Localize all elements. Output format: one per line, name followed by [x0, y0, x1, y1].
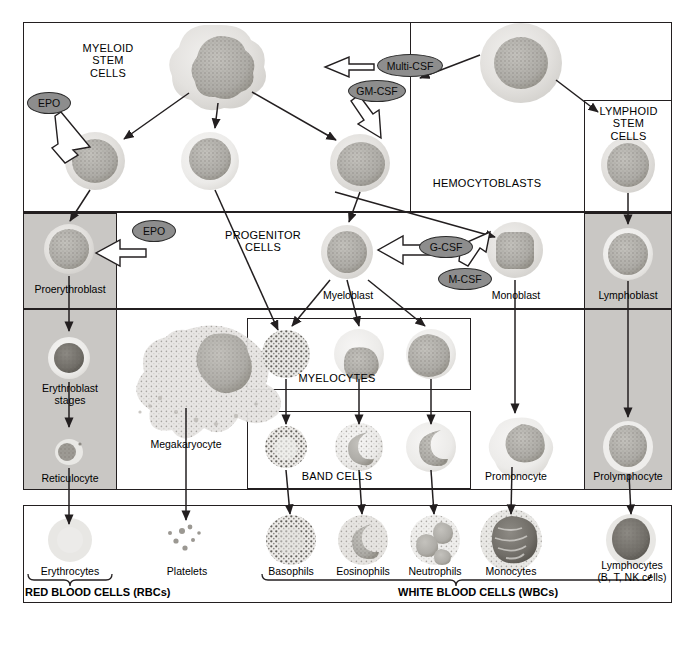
cell-reticulocyte — [55, 439, 83, 465]
arrow-stem-to-cfue — [124, 93, 189, 139]
cell-band-basophil — [265, 426, 307, 468]
myelocytes-label: MYELOCYTES — [282, 372, 392, 384]
band-cells-label: BAND CELLS — [282, 470, 392, 482]
cell-lymphoblast — [603, 228, 653, 280]
cell-proerythroblast — [44, 224, 94, 274]
cell-myelocyte-basophilic — [262, 330, 310, 378]
hematopoiesis-diagram: Multi-CSF GM-CSF EPO EPO G-CSF M-CSF MYE… — [0, 0, 680, 647]
arrow-myeloblast-to-myelocyte3 — [368, 280, 425, 326]
label-promonocyte: Promonocyte — [470, 470, 562, 482]
label-monoblast: Monoblast — [472, 289, 560, 301]
cell-monocyte — [480, 509, 542, 571]
label-erythrocytes: Erythrocytes — [24, 565, 116, 577]
label-reticulocyte: Reticulocyte — [22, 472, 118, 484]
arrow-cfumeg-to-megakaryocyte — [215, 190, 278, 330]
cell-eosinophil — [338, 515, 388, 565]
cell-myeloblast — [321, 225, 373, 279]
cell-lymphoid-stem — [601, 137, 655, 193]
hemocytoblasts-label: HEMOCYTOBLASTS — [417, 177, 557, 189]
label-erythroblast-stages: Erythroblast stages — [22, 382, 118, 407]
cell-megakaryocyte — [136, 326, 281, 439]
hollow-arrow-multi-csf — [325, 57, 374, 77]
cell-erythroblast-stages — [48, 337, 90, 379]
cell-basophil — [266, 515, 316, 565]
cell-cfu-meg — [181, 132, 239, 190]
growth-factor-epo-mid[interactable]: EPO — [132, 220, 176, 242]
cell-prolymphocyte — [603, 421, 653, 473]
cell-neutrophil — [410, 515, 460, 565]
cell-platelets — [168, 525, 201, 551]
growth-factor-gm-csf[interactable]: GM-CSF — [348, 80, 406, 102]
cell-band-eosinophil — [335, 423, 383, 471]
diagram-graphics-layer — [0, 0, 680, 647]
cell-promonocyte — [489, 418, 553, 477]
growth-factor-multi-csf[interactable]: Multi-CSF — [377, 54, 443, 77]
growth-factor-g-csf[interactable]: G-CSF — [419, 236, 473, 258]
lymphoid-stem-cells-label: LYMPHOID STEM CELLS — [586, 105, 671, 142]
label-proerythroblast: Proerythroblast — [22, 283, 118, 295]
cell-hemocytoblast — [480, 23, 562, 103]
footer-wbc: WHITE BLOOD CELLS (WBCs) — [398, 586, 558, 598]
progenitor-cells-label: PROGENITOR CELLS — [208, 229, 318, 254]
arrow-cfue-to-proerythroblast — [70, 190, 90, 221]
cell-erythrocyte — [48, 518, 92, 562]
cell-myelocyte-neutrophilic — [406, 329, 456, 379]
arrow-myeloblast-to-myelocyte2 — [347, 280, 359, 326]
label-platelets: Platelets — [142, 565, 232, 577]
arrow-myeloblast-to-myelocyte1 — [292, 280, 330, 326]
footer-rbc: RED BLOOD CELLS (RBCs) — [25, 586, 170, 598]
label-lymphocytes: Lymphocytes (B, T, NK cells) — [586, 559, 678, 584]
label-monocytes: Monocytes — [466, 565, 556, 577]
label-lymphoblast: Lymphoblast — [584, 289, 672, 301]
cell-monoblast — [487, 222, 543, 278]
growth-factor-epo-top[interactable]: EPO — [27, 92, 71, 114]
myeloid-stem-cells-label: MYELOID STEM CELLS — [38, 42, 178, 79]
cell-cfu-gm — [330, 134, 390, 192]
cell-band-neutrophil — [406, 422, 456, 472]
arrow-stem-to-cfugm — [252, 92, 336, 140]
label-prolymphocyte: Prolymphocyte — [584, 470, 672, 482]
arrow-band3-to-neutrophil — [431, 470, 434, 514]
label-megakaryocyte: Megakaryocyte — [130, 438, 242, 450]
growth-factor-m-csf[interactable]: M-CSF — [438, 268, 492, 290]
hollow-arrow-epo-mid — [96, 240, 146, 266]
label-myeloblast: Myeloblast — [302, 289, 394, 301]
